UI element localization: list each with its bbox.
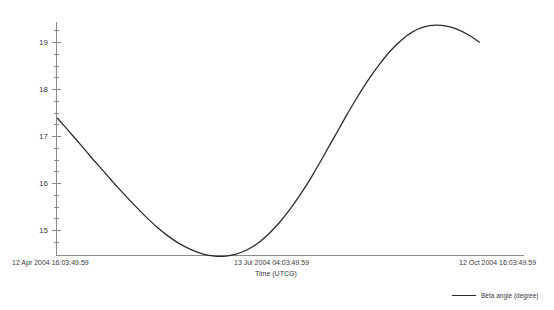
- y-tick-label-19: 19: [30, 38, 48, 47]
- x-axis-title: Time (UTCG): [255, 270, 297, 277]
- legend-label-beta-angle: Beta angle (degree): [481, 292, 538, 299]
- y-tick-label-18: 18: [30, 85, 48, 94]
- y-tick-label-15: 15: [30, 226, 48, 235]
- legend-swatch-beta-angle: [452, 295, 476, 296]
- x-tick-label-middle: 13 Jul 2004 04:03:49.59: [234, 258, 309, 267]
- y-tick-label-17: 17: [30, 132, 48, 141]
- chart-container: 19 18 17 16 15 12 Apr 2004 16:03:49.59 1…: [0, 0, 554, 310]
- y-tick-label-16: 16: [30, 179, 48, 188]
- chart-legend: Beta angle (degree): [452, 292, 538, 299]
- series-line-beta-angle: [57, 25, 480, 256]
- x-tick-label-start: 12 Apr 2004 16:03:49.59: [12, 258, 89, 267]
- x-tick-label-end: 12 Oct 2004 16:03:49.59: [459, 258, 536, 267]
